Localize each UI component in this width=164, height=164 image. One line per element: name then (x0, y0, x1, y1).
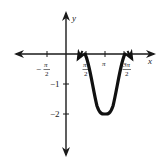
svg-text:−2: −2 (50, 109, 60, 119)
svg-text:π: π (44, 61, 48, 69)
function-graph: y x − π 2 π 2 π 3π 2 −1 −2 (0, 0, 164, 164)
curve-arrow-left (78, 51, 83, 59)
y-axis-label: y (71, 13, 76, 23)
svg-text:π: π (102, 60, 106, 68)
svg-text:−1: −1 (50, 79, 60, 89)
svg-text:2: 2 (84, 70, 88, 78)
svg-text:2: 2 (125, 70, 129, 78)
x-axis-label: x (147, 56, 152, 66)
x-tick-neg-pi-over-2: − π 2 (36, 51, 50, 78)
svg-text:2: 2 (45, 70, 49, 78)
svg-text:−: − (36, 64, 41, 74)
curve-arrow-right (128, 51, 133, 59)
